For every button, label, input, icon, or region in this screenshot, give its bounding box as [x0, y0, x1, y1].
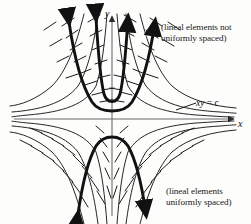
curve-equation-operator: =: [204, 98, 214, 108]
y-axis-label: y: [105, 8, 109, 19]
caption-lineal-elements-not-uniform: (lineal elements not uniformly spaced): [161, 22, 251, 44]
curve-equation-label: xy = c: [196, 98, 219, 108]
hyperbola-q4-b: [126, 125, 236, 224]
curve-equation-constant: c: [215, 98, 219, 108]
hyperbola-q2-b: [12, 14, 98, 112]
x-axis-label: x: [238, 118, 242, 129]
caption-lineal-elements-uniform: (lineal elements uniformly spaced): [166, 186, 251, 208]
direction-field-figure: y x xy = c (lineal elements not uniforml…: [0, 0, 251, 224]
hyperbola-q3-a: [12, 121, 107, 224]
hyperbola-q3-c: [10, 132, 84, 224]
